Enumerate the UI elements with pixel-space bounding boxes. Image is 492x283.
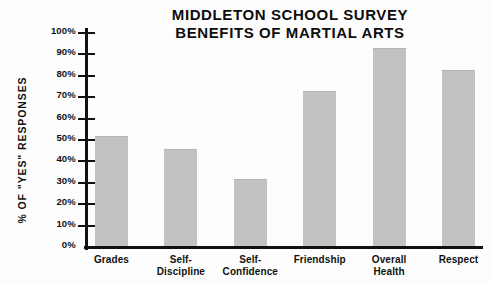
- x-label-self-confidence: Self-Confidence: [210, 254, 290, 277]
- y-tick-label: 20%: [56, 196, 76, 207]
- x-label-self-discipline: Self-Discipline: [141, 254, 221, 277]
- y-tick-label: 70%: [56, 89, 76, 100]
- y-tick-label: 30%: [56, 175, 76, 186]
- y-tick-mark: [78, 139, 95, 141]
- x-label-line: Discipline: [141, 266, 221, 278]
- x-label-overall-health: OverallHealth: [349, 254, 429, 277]
- y-tick-label: 10%: [56, 218, 76, 229]
- x-label-line: Confidence: [210, 266, 290, 278]
- y-tick-label: 80%: [56, 68, 76, 79]
- bar-friendship: [303, 91, 336, 246]
- chart-title-line1: MIDDLETON SCHOOL SURVEY: [172, 6, 408, 23]
- y-tick-label: 40%: [56, 153, 76, 164]
- y-tick-mark: [78, 203, 95, 205]
- x-label-line: Health: [349, 266, 429, 278]
- y-tick-label: 90%: [56, 46, 76, 57]
- x-label-friendship: Friendship: [280, 254, 360, 266]
- bar-self-confidence: [234, 179, 267, 246]
- x-label-line: Overall: [349, 254, 429, 266]
- y-tick-mark: [78, 96, 95, 98]
- y-tick-mark: [78, 118, 95, 120]
- y-tick-label: 50%: [56, 132, 76, 143]
- y-tick-label: 0%: [62, 239, 76, 250]
- bar-chart: MIDDLETON SCHOOL SURVEY BENEFITS OF MART…: [0, 0, 492, 283]
- x-label-line: Self-: [210, 254, 290, 266]
- y-tick-mark: [78, 53, 95, 55]
- bar-respect: [442, 70, 475, 246]
- x-label-respect: Respect: [419, 254, 492, 266]
- y-tick-mark: [78, 75, 95, 77]
- x-axis-line: [84, 246, 483, 249]
- bar-self-discipline: [164, 149, 197, 246]
- plot-area: 100%90%80%70%60%50%40%30%20%10%0% Grades…: [85, 32, 483, 246]
- y-axis-title: % OF "YES" RESPONSES: [16, 43, 28, 258]
- x-label-grades: Grades: [72, 254, 152, 266]
- x-label-line: Friendship: [280, 254, 360, 266]
- bar-grades: [95, 136, 128, 246]
- x-label-line: Respect: [419, 254, 492, 266]
- x-label-line: Self-: [141, 254, 221, 266]
- y-tick-label: 60%: [56, 111, 76, 122]
- y-tick-mark: [78, 32, 95, 34]
- y-tick-label: 100%: [51, 25, 76, 36]
- y-tick-mark: [78, 225, 95, 227]
- bar-overall-health: [373, 48, 406, 246]
- x-label-line: Grades: [72, 254, 152, 266]
- y-tick-mark: [78, 160, 95, 162]
- y-tick-mark: [78, 182, 95, 184]
